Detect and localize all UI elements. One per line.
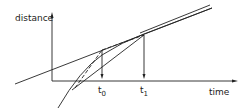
t1-arrow-icon [143, 74, 146, 79]
t0-label: t0 [98, 86, 106, 98]
t0-arrow-icon [101, 74, 104, 79]
x-axis-label: time [209, 88, 229, 97]
y-axis-label: distance [15, 14, 53, 23]
t0-label-subscript: 0 [102, 90, 106, 98]
asymptote-line [140, 5, 210, 33]
tangent-line [72, 35, 144, 90]
trajectory-curve [58, 8, 212, 108]
diagram-canvas: distance time t0 t1 [0, 0, 247, 110]
t1-label: t1 [140, 86, 148, 98]
x-axis-arrow-icon [232, 80, 238, 83]
t1-label-subscript: 1 [144, 90, 148, 98]
